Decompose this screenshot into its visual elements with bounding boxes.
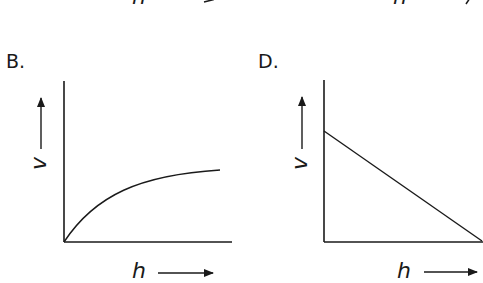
panel-d-graph: v h	[287, 80, 483, 283]
panel-b-graph: v h	[26, 81, 232, 283]
panel-b-x-label: h	[132, 258, 146, 283]
panel-d-x-label: h	[397, 258, 411, 283]
top-strip-remnant: h h	[132, 0, 470, 9]
top-left-h-label: h	[132, 0, 146, 9]
figure-canvas: h h v h v h	[0, 0, 483, 283]
panel-d-line	[324, 131, 482, 241]
top-right-h-label: h	[393, 0, 407, 9]
panel-b-y-label: v	[26, 156, 51, 170]
panel-b-curve	[64, 170, 220, 242]
panel-d-y-label: v	[287, 156, 312, 170]
